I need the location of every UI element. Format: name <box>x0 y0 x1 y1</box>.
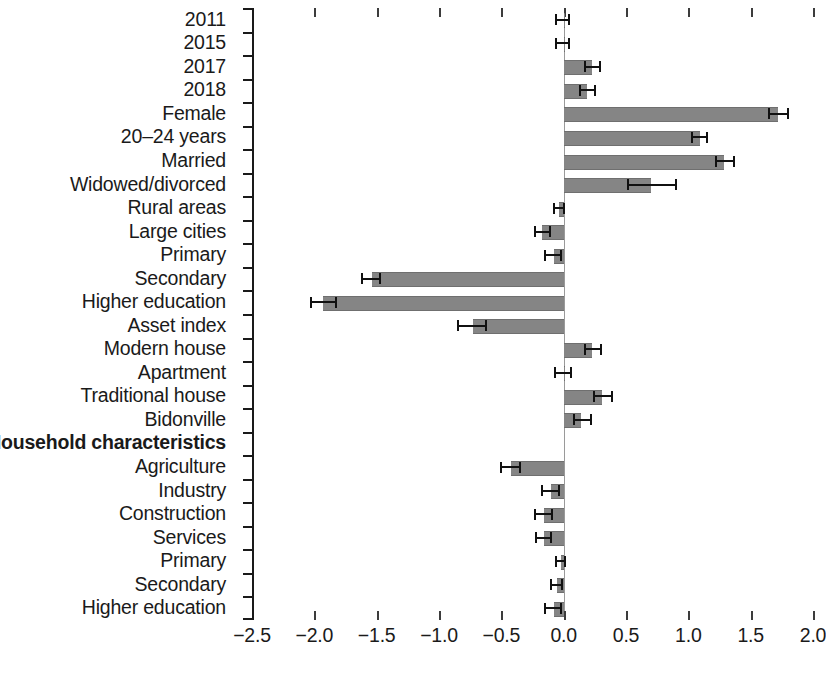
category-label: 2015 <box>183 33 226 53</box>
category-label: Secondary <box>135 575 226 595</box>
bar <box>564 13 565 28</box>
error-bar <box>585 348 601 350</box>
error-bar-cap <box>457 320 459 331</box>
y-axis-tick <box>243 385 252 387</box>
bar <box>564 107 778 122</box>
x-axis-tick-label: −2.0 <box>295 626 333 646</box>
error-bar-cap <box>568 14 570 25</box>
category-label: Large cities <box>129 222 226 242</box>
category-label: Female <box>162 104 226 124</box>
error-bar <box>769 113 788 115</box>
x-axis-tick-label: −1.0 <box>420 626 458 646</box>
y-axis-tick <box>243 102 252 104</box>
y-axis-tick <box>243 526 252 528</box>
error-bar-cap <box>584 344 586 355</box>
error-bar <box>545 254 561 256</box>
error-bar <box>585 66 600 68</box>
bar <box>372 272 564 287</box>
error-bar-cap <box>534 226 536 237</box>
category-label: Primary <box>160 551 226 571</box>
error-bar <box>716 160 735 162</box>
x-axis-tick <box>813 8 815 17</box>
bar <box>544 531 564 546</box>
error-bar-cap <box>600 344 602 355</box>
category-label: 20–24 years <box>121 127 226 147</box>
error-bar-cap <box>584 61 586 72</box>
error-bar-cap <box>551 509 553 520</box>
section-header-label: Household characteristics <box>0 433 226 453</box>
bar <box>564 37 565 52</box>
y-axis-tick <box>243 149 252 151</box>
error-bar-cap <box>544 603 546 614</box>
category-label: Traditional house <box>81 386 226 406</box>
error-bar <box>574 419 591 421</box>
zero-reference-line <box>564 8 566 620</box>
x-axis-tick-label: 2.0 <box>800 626 826 646</box>
error-bar-cap <box>361 273 363 284</box>
category-label: Asset index <box>127 316 226 336</box>
error-bar <box>458 325 487 327</box>
error-bar-cap <box>594 85 596 96</box>
error-bar-cap <box>553 203 555 214</box>
y-axis-tick <box>243 618 252 620</box>
error-bar-cap <box>550 579 552 590</box>
error-bar-cap <box>733 156 735 167</box>
error-bar <box>692 136 707 138</box>
x-axis-tick <box>626 8 628 17</box>
bar <box>564 390 603 405</box>
y-axis-tick <box>243 408 252 410</box>
error-bar-cap <box>579 85 581 96</box>
x-axis-tick <box>377 611 379 620</box>
x-axis-tick <box>688 8 690 17</box>
category-label: Primary <box>160 245 226 265</box>
category-label: Rural areas <box>127 198 226 218</box>
y-axis-tick <box>243 596 252 598</box>
error-bar-cap <box>561 579 563 590</box>
error-bar-cap <box>554 367 556 378</box>
error-bar <box>536 537 551 539</box>
error-bar <box>542 490 558 492</box>
error-bar-cap <box>544 250 546 261</box>
bar <box>323 296 564 311</box>
category-label: Construction <box>119 504 226 524</box>
x-axis-tick-label: 1.5 <box>737 626 764 646</box>
y-axis-tick <box>243 361 252 363</box>
y-axis-tick <box>243 243 252 245</box>
bar <box>564 84 588 99</box>
bar <box>564 131 700 146</box>
x-axis-tick-label: −1.5 <box>358 626 396 646</box>
y-axis-tick <box>243 314 252 316</box>
error-bar-cap <box>706 132 708 143</box>
error-bar-cap <box>691 132 693 143</box>
y-axis-tick <box>243 79 252 81</box>
y-axis-tick <box>243 338 252 340</box>
category-label: Industry <box>158 481 226 501</box>
y-axis-tick <box>243 267 252 269</box>
x-axis-tick <box>564 611 566 620</box>
error-bar-cap <box>534 509 536 520</box>
x-axis-tick <box>688 611 690 620</box>
error-bar-cap <box>555 38 557 49</box>
y-axis-tick <box>243 455 252 457</box>
y-axis-tick <box>243 290 252 292</box>
x-axis-tick <box>751 611 753 620</box>
category-label: 2011 <box>185 10 226 30</box>
error-bar-cap <box>787 108 789 119</box>
category-label: Bidonville <box>145 410 226 430</box>
x-axis-tick <box>626 611 628 620</box>
y-axis-tick <box>243 55 252 57</box>
category-label-column: 2011201520172018Female20–24 yearsMarried… <box>0 0 236 620</box>
y-axis-tick <box>243 502 252 504</box>
error-bar-cap <box>555 14 557 25</box>
x-axis-tick-label: 0.5 <box>613 626 640 646</box>
error-bar-cap <box>593 391 595 402</box>
x-axis-tick <box>501 611 503 620</box>
x-axis-tick <box>751 8 753 17</box>
x-axis-tick <box>439 8 441 17</box>
error-bar-cap <box>573 414 575 425</box>
y-axis-tick <box>243 479 252 481</box>
error-bar-cap <box>768 108 770 119</box>
error-bar-cap <box>335 297 337 308</box>
error-bar <box>580 89 595 91</box>
error-bar-cap <box>715 156 717 167</box>
